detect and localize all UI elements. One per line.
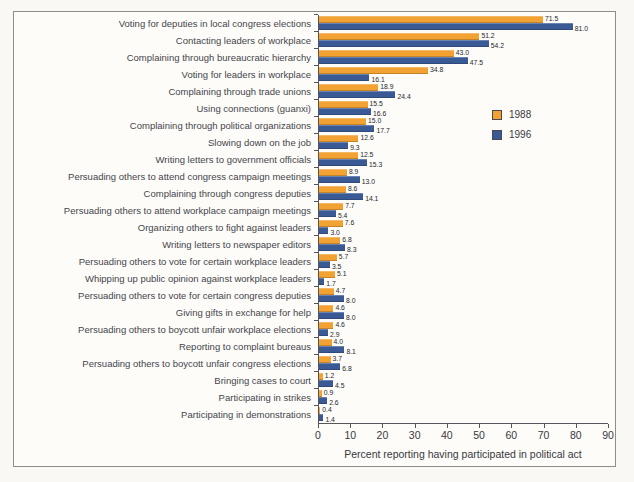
category-label: Writing letters to government officials xyxy=(14,151,318,168)
value-label: 7.6 xyxy=(345,219,354,226)
bar-group: 6.88.3 xyxy=(318,236,601,253)
bar-group: 5.73.5 xyxy=(318,253,601,270)
category-label: Complaining through bureaucratic hierarc… xyxy=(14,49,318,66)
category-label: Using connections (guanxi) xyxy=(14,100,318,117)
bar-line-1988: 1.2 xyxy=(319,373,601,380)
bar-line-1988: 34.8 xyxy=(319,67,601,74)
bar-line-1996: 17.7 xyxy=(319,125,601,132)
bar-line-1988: 4.6 xyxy=(319,322,601,329)
x-axis-tick xyxy=(350,424,351,428)
bar-1996 xyxy=(319,312,344,319)
bar-1996 xyxy=(319,329,328,336)
bar-1988 xyxy=(319,254,337,261)
category-row: Persuading others to vote for certain co… xyxy=(14,287,615,304)
value-label: 0.4 xyxy=(322,406,331,413)
bar-1988 xyxy=(319,237,340,244)
x-axis: 0102030405060708090 xyxy=(318,423,608,442)
bar-1988 xyxy=(319,322,333,329)
bar-1996 xyxy=(319,125,374,132)
bar-1996 xyxy=(319,40,489,47)
bar-1996 xyxy=(319,23,573,30)
value-label: 15.5 xyxy=(370,100,383,107)
bar-1996 xyxy=(319,295,344,302)
bar-group: 4.08.1 xyxy=(318,338,601,355)
x-axis-tick-label: 70 xyxy=(538,429,550,441)
x-axis-tick-label: 10 xyxy=(344,429,356,441)
value-label: 4.6 xyxy=(335,304,344,311)
bar-1988 xyxy=(319,373,323,380)
value-label: 5.1 xyxy=(337,270,346,277)
value-label: 43.0 xyxy=(456,49,469,56)
x-axis-tick-label: 80 xyxy=(570,429,582,441)
bar-group: 15.017.7 xyxy=(318,117,601,134)
value-label: 1.7 xyxy=(326,280,335,287)
bar-line-1988: 18.9 xyxy=(319,84,601,91)
category-label: Participating in strikes xyxy=(14,389,318,406)
bar-group: 18.924.4 xyxy=(318,83,601,100)
bar-group: 12.515.3 xyxy=(318,151,601,168)
chart-frame: Voting for deputies in local congress el… xyxy=(13,11,616,467)
x-axis-tick xyxy=(318,424,319,428)
bar-1996 xyxy=(319,397,327,404)
bar-1996 xyxy=(319,176,360,183)
bar-1996 xyxy=(319,380,333,387)
category-label: Complaining through political organizati… xyxy=(14,117,318,134)
bar-line-1988: 5.1 xyxy=(319,271,601,278)
bar-1988 xyxy=(319,339,332,346)
bar-1996 xyxy=(319,261,330,268)
value-label: 8.6 xyxy=(348,185,357,192)
value-label: 47.5 xyxy=(470,59,483,66)
bar-group: 34.816.1 xyxy=(318,66,601,83)
bar-line-1996: 3.0 xyxy=(319,227,601,234)
bar-line-1996: 15.3 xyxy=(319,159,601,166)
category-row: Writing letters to government officials1… xyxy=(14,151,615,168)
bar-1988 xyxy=(319,390,322,397)
category-row: Writing letters to newspaper editors6.88… xyxy=(14,236,615,253)
value-label: 81.0 xyxy=(575,25,588,32)
value-label: 6.8 xyxy=(342,236,351,243)
category-row: Persuading others to boycott unfair work… xyxy=(14,321,615,338)
bar-line-1988: 4.0 xyxy=(319,339,601,346)
bar-1996 xyxy=(319,227,328,234)
bar-line-1988: 12.5 xyxy=(319,152,601,159)
bar-line-1996: 3.5 xyxy=(319,261,601,268)
value-label: 4.7 xyxy=(336,287,345,294)
bar-group: 4.62.9 xyxy=(318,321,601,338)
category-label: Persuading others to boycott unfair cong… xyxy=(14,355,318,372)
category-row: Whipping up public opinion against workp… xyxy=(14,270,615,287)
bar-1988 xyxy=(319,50,454,57)
bar-1988 xyxy=(319,186,346,193)
x-axis-tick xyxy=(415,424,416,428)
x-axis-tick-label: 20 xyxy=(377,429,389,441)
bar-1996 xyxy=(319,363,340,370)
x-axis-tick-label: 0 xyxy=(315,429,321,441)
bar-line-1996: 1.7 xyxy=(319,278,601,285)
value-label: 8.9 xyxy=(349,168,358,175)
bar-line-1996: 81.0 xyxy=(319,23,601,30)
x-axis-tick xyxy=(479,424,480,428)
value-label: 12.5 xyxy=(360,151,373,158)
bar-line-1988: 6.8 xyxy=(319,237,601,244)
value-label: 4.6 xyxy=(335,321,344,328)
value-label: 17.7 xyxy=(376,127,389,134)
category-label: Persuading others to boycott unfair work… xyxy=(14,321,318,338)
bar-group: 7.63.0 xyxy=(318,219,601,236)
bar-chart: Voting for deputies in local congress el… xyxy=(14,12,615,466)
bar-group: 4.78.0 xyxy=(318,287,601,304)
value-label: 4.5 xyxy=(335,382,344,389)
value-label: 6.8 xyxy=(342,365,351,372)
bar-1988 xyxy=(319,288,334,295)
bar-1988 xyxy=(319,220,343,227)
value-label: 8.3 xyxy=(347,246,356,253)
x-axis-tick xyxy=(544,424,545,428)
value-label: 1.2 xyxy=(325,372,334,379)
legend-swatch-1996 xyxy=(492,130,502,140)
x-axis-tick-label: 60 xyxy=(505,429,517,441)
category-rows: Voting for deputies in local congress el… xyxy=(14,15,615,423)
bar-group: 15.516.6 xyxy=(318,100,601,117)
bar-line-1988: 71.5 xyxy=(319,16,601,23)
x-axis-tick-label: 50 xyxy=(473,429,485,441)
bar-1996 xyxy=(319,414,323,421)
bar-group: 8.913.0 xyxy=(318,168,601,185)
category-row: Complaining through congress deputies8.6… xyxy=(14,185,615,202)
